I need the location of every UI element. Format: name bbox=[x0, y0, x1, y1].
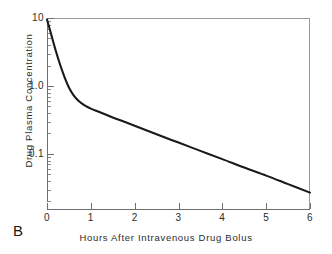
x-axis-title: Hours After Intravenous Drug Bolus bbox=[0, 232, 332, 243]
panel-label: B bbox=[13, 222, 24, 239]
y-axis-title: Drug Plasma Concentration bbox=[23, 11, 34, 191]
pharmacokinetic-chart-figure: 101.00.1 0123456 Drug Plasma Concentrati… bbox=[0, 0, 332, 254]
concentration-curve bbox=[47, 20, 310, 193]
curve-svg bbox=[0, 0, 332, 254]
